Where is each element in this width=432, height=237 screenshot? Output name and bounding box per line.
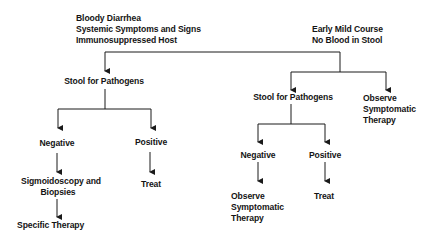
- sigmoidoscopy-line-1: Sigmoidoscopy and: [21, 176, 101, 187]
- right-observe-line-1: Observe: [363, 93, 397, 104]
- right-treat: Treat: [314, 191, 334, 202]
- left-treat: Treat: [141, 179, 161, 190]
- right-negative-observe-line-2: Symptomatic: [231, 202, 284, 213]
- sigmoidoscopy-line-2: Biopsies: [40, 187, 75, 198]
- right-observe-line-3: Therapy: [363, 115, 396, 126]
- flowchart-diagram: Bloody Diarrhea Systemic Symptoms and Si…: [0, 0, 432, 237]
- left-condition-line-2: Systemic Symptoms and Signs: [76, 24, 201, 35]
- right-negative: Negative: [240, 150, 275, 161]
- left-condition-line-1: Bloody Diarrhea: [76, 13, 141, 24]
- right-condition-line-1: Early Mild Course: [312, 24, 383, 35]
- specific-therapy: Specific Therapy: [17, 220, 84, 231]
- right-stool-for-pathogens: Stool for Pathogens: [253, 92, 333, 103]
- left-stool-for-pathogens: Stool for Pathogens: [64, 76, 144, 87]
- right-condition-line-2: No Blood in Stool: [312, 35, 382, 46]
- left-negative: Negative: [39, 138, 74, 149]
- right-negative-observe-line-1: Observe: [231, 191, 265, 202]
- left-condition-line-3: Immunosuppressed Host: [76, 35, 177, 46]
- right-negative-observe-line-3: Therapy: [231, 213, 264, 224]
- left-positive: Positive: [135, 137, 167, 148]
- right-observe-line-2: Symptomatic: [363, 104, 416, 115]
- right-positive: Positive: [309, 150, 341, 161]
